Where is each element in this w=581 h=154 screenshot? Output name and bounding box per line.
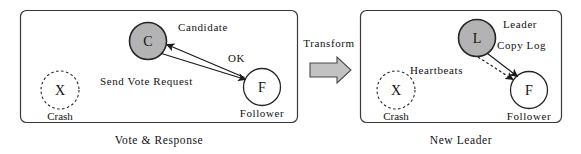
diagram-canvas: X Crash C Candidate F Follower OK Send V…: [0, 0, 581, 154]
crash-node-label-left: Crash: [47, 110, 73, 122]
follower-node-glyph-left: F: [258, 80, 266, 95]
transform-group: Transform: [303, 37, 354, 83]
crash-node-glyph-right: X: [391, 83, 401, 98]
edge-ok-label: OK: [228, 52, 245, 64]
panel-new-leader: X Crash L Leader F Follower Copy Log Hea…: [361, 11, 562, 147]
node-follower-right[interactable]: F: [511, 72, 548, 109]
diagram-svg: X Crash C Candidate F Follower OK Send V…: [0, 0, 581, 154]
panel-caption-left: Vote & Response: [115, 134, 204, 147]
leader-role-label: Leader: [503, 18, 537, 30]
node-follower-left[interactable]: F: [244, 69, 281, 106]
candidate-role-label: Candidate: [178, 21, 228, 33]
leader-node-glyph: L: [473, 31, 482, 46]
panel-caption-right: New Leader: [430, 134, 493, 146]
transform-label: Transform: [303, 37, 354, 49]
edge-heartbeats-label: Heartbeats: [410, 64, 463, 76]
follower-node-glyph-right: F: [525, 83, 533, 98]
edge-copy-log-label: Copy Log: [497, 39, 546, 51]
panel-vote-and-response: X Crash C Candidate F Follower OK Send V…: [21, 11, 298, 148]
crash-node-label-right: Crash: [383, 110, 409, 122]
crash-node-glyph-left: X: [55, 83, 65, 98]
node-leader[interactable]: L: [459, 20, 496, 57]
candidate-node-glyph: C: [143, 34, 152, 49]
follower-role-label-left: Follower: [240, 107, 285, 119]
transform-block-arrow-icon: [310, 57, 351, 83]
follower-role-label-right: Follower: [507, 110, 552, 122]
node-candidate[interactable]: C: [130, 23, 167, 60]
edge-send-vote-request-label: Send Vote Request: [100, 75, 193, 87]
